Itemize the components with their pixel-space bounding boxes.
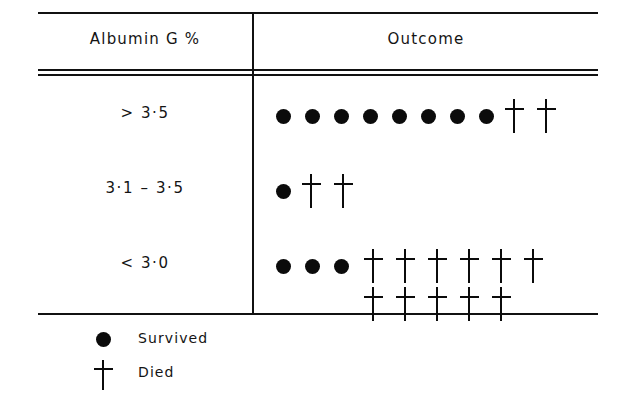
survived-marker — [421, 109, 436, 124]
survived-marker — [363, 109, 378, 124]
survived-marker — [392, 109, 407, 124]
survived-marker — [276, 109, 291, 124]
died-marker — [524, 249, 543, 283]
column-header-outcome: Outcome — [254, 30, 598, 48]
died-marker — [364, 287, 383, 321]
cross-icon — [92, 360, 118, 390]
died-marker — [505, 99, 524, 133]
row-label-high-albumin: > 3·5 — [38, 104, 252, 122]
died-marker — [334, 174, 353, 208]
died-marker — [492, 287, 511, 321]
survived-marker — [276, 259, 291, 274]
died-marker — [428, 287, 447, 321]
column-header-albumin: Albumin G % — [38, 30, 252, 48]
table-top-rule — [38, 12, 598, 14]
legend-label-died: Died — [138, 364, 175, 380]
survived-marker — [334, 259, 349, 274]
died-marker — [460, 249, 479, 283]
died-marker — [537, 99, 556, 133]
survived-marker — [479, 109, 494, 124]
died-marker — [492, 249, 511, 283]
table-header-rule-lower — [38, 74, 598, 76]
filled-circle-icon — [92, 326, 118, 356]
table-header-rule-upper — [38, 69, 598, 71]
row-label-mid-albumin: 3·1 – 3·5 — [38, 179, 252, 197]
died-marker — [396, 249, 415, 283]
table-bottom-rule — [38, 313, 598, 315]
survived-marker — [276, 184, 291, 199]
died-marker — [302, 174, 321, 208]
albumin-outcome-figure: Albumin G % Outcome > 3·5 3·1 – 3·5 < 3·… — [0, 0, 635, 406]
survived-marker — [334, 109, 349, 124]
table-column-divider — [252, 12, 254, 315]
survived-marker — [450, 109, 465, 124]
survived-marker — [305, 109, 320, 124]
legend-label-survived: Survived — [138, 330, 208, 346]
row-label-low-albumin: < 3·0 — [38, 254, 252, 272]
died-marker — [428, 249, 447, 283]
died-marker — [396, 287, 415, 321]
died-marker — [364, 249, 383, 283]
died-marker — [460, 287, 479, 321]
survived-marker — [305, 259, 320, 274]
